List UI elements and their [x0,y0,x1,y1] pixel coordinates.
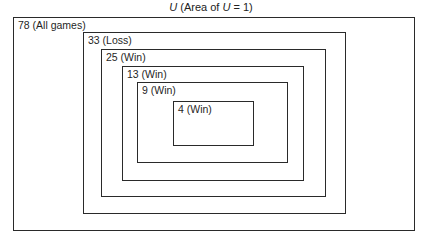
set-label-loss-33: 33 (Loss) [88,34,132,47]
set-label-win-4: 4 (Win) [178,103,212,116]
set-label-win-25: 25 (Win) [106,51,146,64]
universe-symbol: U [169,1,177,13]
set-box-win-4: 4 (Win) [173,101,254,146]
set-label-win-9: 9 (Win) [142,84,176,97]
title-prefix: (Area of [177,1,222,13]
set-label-win-13: 13 (Win) [127,68,167,81]
diagram-title: U (Area of U = 1) [0,0,422,14]
title-suffix: = 1) [230,1,252,13]
set-label-all-games: 78 (All games) [18,19,86,32]
